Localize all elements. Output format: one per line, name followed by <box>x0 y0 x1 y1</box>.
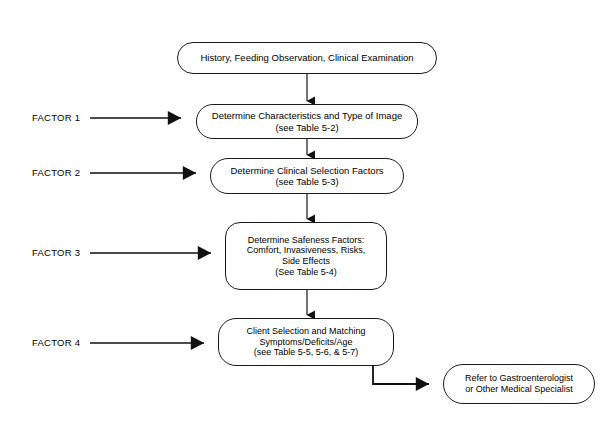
refer-to-gastroenterologist-node: Refer to Gastroenterologist or Other Med… <box>443 364 595 404</box>
history-feeding-observation-node: History, Feeding Observation, Clinical E… <box>177 42 437 74</box>
client-selection-matching-node: Client Selection and Matching Symptoms/D… <box>218 318 394 366</box>
factor-4-label: FACTOR 4 <box>32 337 80 348</box>
determine-characteristics-node: Determine Characteristics and Type of Im… <box>196 104 418 139</box>
flowchart-canvas: History, Feeding Observation, Clinical E… <box>0 0 610 423</box>
factor-3-label: FACTOR 3 <box>32 247 80 258</box>
factor-2-label: FACTOR 2 <box>32 167 80 178</box>
connector-factor4-to-referral <box>373 364 429 384</box>
factor-1-label: FACTOR 1 <box>32 112 80 123</box>
determine-safeness-factors-node: Determine Safeness Factors: Comfort, Inv… <box>225 222 387 290</box>
determine-clinical-selection-factors-node: Determine Clinical Selection Factors (se… <box>210 158 404 194</box>
